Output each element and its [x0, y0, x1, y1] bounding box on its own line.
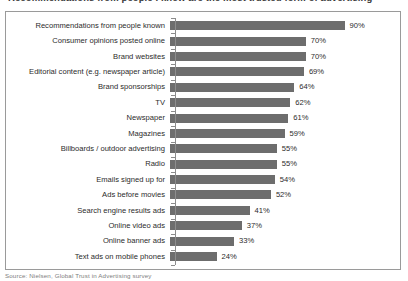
value-label: 37%	[247, 222, 262, 230]
bar	[170, 237, 234, 246]
bar-zone: 70%	[170, 49, 400, 64]
bar-row: Search engine results ads41%	[6, 203, 400, 218]
clipped-caption-strip: Source: Nielsen, Global Trust in Adverti…	[0, 272, 408, 281]
value-label: 69%	[309, 68, 324, 76]
value-label: 55%	[282, 145, 297, 153]
value-label: 54%	[280, 176, 295, 184]
bar-zone: 64%	[170, 80, 400, 95]
value-label: 41%	[255, 207, 270, 215]
chart-figure: Recommendations from people I know are t…	[0, 0, 408, 281]
bar	[170, 83, 294, 92]
axis-tick	[171, 265, 175, 266]
bar	[170, 37, 306, 46]
chart-plot-frame: Recommendations from people known90%Cons…	[5, 11, 401, 270]
bar-row: Magazines59%	[6, 126, 400, 141]
bar-zone: 90%	[170, 18, 400, 33]
bar	[170, 98, 290, 107]
axis-tick	[171, 234, 175, 235]
bar-row: Editorial content (e.g. newspaper articl…	[6, 64, 400, 79]
bar-zone: 70%	[170, 33, 400, 48]
bar-row: Consumer opinions posted online70%	[6, 33, 400, 48]
category-label: Brand websites	[6, 53, 170, 61]
axis-tick	[171, 64, 175, 65]
category-label: Recommendations from people known	[6, 22, 170, 30]
category-label: Search engine results ads	[6, 207, 170, 215]
category-label: Online video ads	[6, 222, 170, 230]
axis-tick	[171, 157, 175, 158]
bar-row: Brand sponsorships64%	[6, 80, 400, 95]
bar	[170, 144, 277, 153]
bar-row: Billboards / outdoor advertising55%	[6, 141, 400, 156]
axis-tick	[171, 49, 175, 50]
axis-tick	[171, 219, 175, 220]
category-label: Ads before movies	[6, 191, 170, 199]
bar-row: Emails signed up for54%	[6, 172, 400, 187]
bar-row: Brand websites70%	[6, 49, 400, 64]
category-label: Consumer opinions posted online	[6, 37, 170, 45]
value-label: 90%	[350, 22, 365, 30]
source-caption: Source: Nielsen, Global Trust in Adverti…	[5, 272, 152, 279]
bar-zone: 62%	[170, 95, 400, 110]
bar	[170, 129, 285, 138]
bar-zone: 33%	[170, 233, 400, 248]
category-label: TV	[6, 99, 170, 107]
bar-zone: 59%	[170, 126, 400, 141]
category-label: Newspaper	[6, 114, 170, 122]
value-label: 62%	[295, 99, 310, 107]
bar-row: Online video ads37%	[6, 218, 400, 233]
bar-zone: 41%	[170, 203, 400, 218]
value-label: 33%	[239, 237, 254, 245]
bar-row: Ads before movies52%	[6, 187, 400, 202]
axis-tick	[171, 18, 175, 19]
bar-zone: 61%	[170, 110, 400, 125]
bar	[170, 206, 250, 215]
category-label: Brand sponsorships	[6, 83, 170, 91]
category-axis-spine	[175, 18, 176, 265]
category-label: Billboards / outdoor advertising	[6, 145, 170, 153]
bar-row: TV62%	[6, 95, 400, 110]
axis-tick	[171, 80, 175, 81]
bar-zone: 55%	[170, 141, 400, 156]
bar	[170, 160, 277, 169]
axis-tick	[171, 188, 175, 189]
bar	[170, 221, 242, 230]
axis-tick	[171, 172, 175, 173]
bar-zone: 24%	[170, 249, 400, 264]
bar-row: Recommendations from people known90%	[6, 18, 400, 33]
chart-title: Recommendations from people I know are t…	[8, 0, 402, 3]
bar	[170, 252, 217, 261]
bar-zone: 52%	[170, 187, 400, 202]
value-label: 55%	[282, 160, 297, 168]
category-label: Emails signed up for	[6, 176, 170, 184]
value-label: 24%	[222, 253, 237, 261]
bar-rows: Recommendations from people known90%Cons…	[6, 18, 400, 265]
clipped-title-strip: Recommendations from people I know are t…	[0, 0, 408, 9]
bar	[170, 21, 345, 30]
axis-tick	[171, 250, 175, 251]
category-label: Text ads on mobile phones	[6, 253, 170, 261]
axis-tick	[171, 95, 175, 96]
bar-zone: 55%	[170, 157, 400, 172]
bar-zone: 54%	[170, 172, 400, 187]
value-label: 59%	[290, 130, 305, 138]
bar	[170, 114, 288, 123]
axis-tick	[171, 126, 175, 127]
axis-tick	[171, 142, 175, 143]
bar	[170, 175, 275, 184]
bar	[170, 52, 306, 61]
value-label: 70%	[311, 37, 326, 45]
category-label: Radio	[6, 160, 170, 168]
axis-tick	[171, 33, 175, 34]
bar-zone: 69%	[170, 64, 400, 79]
value-label: 61%	[293, 114, 308, 122]
value-label: 52%	[276, 191, 291, 199]
bar-zone: 37%	[170, 218, 400, 233]
category-label: Editorial content (e.g. newspaper articl…	[6, 68, 170, 76]
value-label: 64%	[299, 83, 314, 91]
bar	[170, 190, 271, 199]
category-label: Magazines	[6, 130, 170, 138]
value-label: 70%	[311, 53, 326, 61]
bar-row: Newspaper61%	[6, 110, 400, 125]
axis-tick	[171, 203, 175, 204]
bar-row: Text ads on mobile phones24%	[6, 249, 400, 264]
